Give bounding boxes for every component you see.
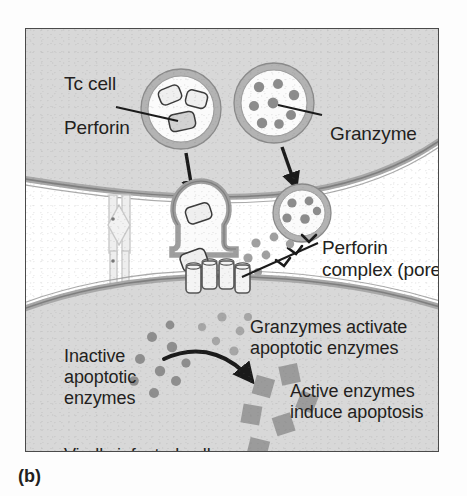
label-active-enzymes: Active enzymesinduce apoptosis	[290, 381, 424, 423]
perforin-vesicle	[141, 69, 221, 149]
label-granzyme: Granzyme	[330, 123, 417, 145]
label-inactive-apoptotic-enzymes: Inactiveapoptoticenzymes	[64, 346, 136, 409]
label-virally-infected-cell: Virally infected cell	[64, 445, 211, 452]
fusing-granzyme-vesicle	[273, 184, 331, 242]
label-active-line2: induce apoptosis	[290, 402, 424, 422]
label-perforin-complex-line2: complex (pore)	[322, 259, 439, 280]
label-granzymes-activate-line2: apoptotic enzymes	[250, 338, 398, 358]
label-inactive-line2: apoptotic	[64, 367, 136, 387]
label-tc-cell: Tc cell	[64, 73, 116, 95]
fusing-perforin-vesicle	[172, 181, 236, 255]
label-inactive-line1: Inactive	[64, 346, 125, 366]
granzyme-vesicle	[234, 63, 314, 143]
tc-cell-body	[26, 29, 439, 203]
label-perforin-complex: Perforincomplex (pore)	[322, 237, 439, 281]
perforin-complex-leader-line	[242, 243, 318, 277]
label-granzymes-activate: Granzymes activateapoptotic enzymes	[250, 317, 407, 359]
label-perforin: Perforin	[64, 117, 130, 139]
label-perforin-complex-line1: Perforin	[322, 237, 388, 258]
figure-panel-b: Tc cell Perforin Granzyme Perforincomple…	[0, 0, 467, 496]
panel-caption: (b)	[18, 466, 41, 487]
label-inactive-line3: enzymes	[64, 388, 135, 408]
label-granzymes-activate-line1: Granzymes activate	[250, 317, 407, 337]
diagram-frame: Tc cell Perforin Granzyme Perforincomple…	[25, 28, 439, 452]
label-active-line1: Active enzymes	[290, 381, 415, 401]
